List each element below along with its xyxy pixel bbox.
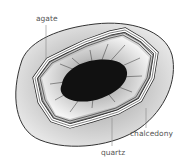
label-quartz: quartz bbox=[101, 149, 125, 157]
geode-diagram: agate chalcedony quartz bbox=[0, 0, 182, 161]
label-agate: agate bbox=[36, 15, 58, 23]
label-chalcedony: chalcedony bbox=[130, 130, 173, 138]
